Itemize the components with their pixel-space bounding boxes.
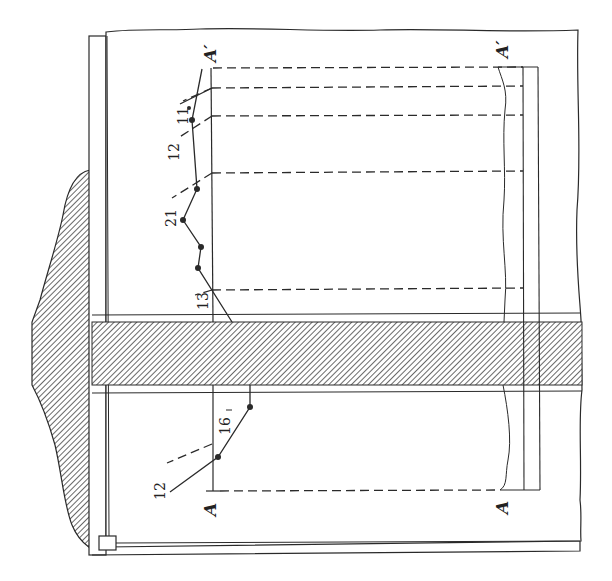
- label-value: 13: [195, 292, 211, 310]
- cross-section-diagram: A′ A A′ A 11 12 21 13 16 12: [0, 0, 612, 581]
- label-value: 16: [217, 417, 233, 435]
- corner-square: [99, 536, 116, 550]
- terrain-hatched-profile: [32, 170, 90, 548]
- label-a-prime-bottom: A′: [492, 40, 512, 60]
- label-value: 12: [166, 143, 182, 161]
- label-a-prime-top: A′: [200, 44, 220, 64]
- label-value: 11: [175, 107, 191, 125]
- label-a-bottom: A: [492, 501, 512, 516]
- label-value: 21: [163, 209, 179, 227]
- left-wall-strip: [89, 36, 106, 555]
- label-value: 12: [152, 482, 168, 500]
- hatched-horizontal-bar: [92, 322, 582, 385]
- label-a-top: A: [200, 503, 220, 518]
